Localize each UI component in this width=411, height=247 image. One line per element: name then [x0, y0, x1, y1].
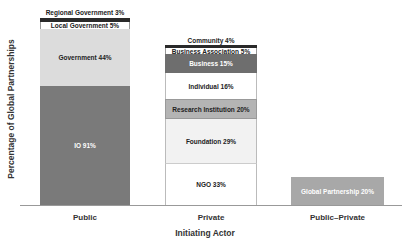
x-tick-public: Public: [40, 213, 130, 222]
segment-label: Business 15%: [189, 60, 233, 67]
segment-business: Business 15%: [165, 54, 257, 73]
segment-foundation: Foundation 29%: [165, 119, 257, 163]
label-regional-government: Regional Government 3%: [30, 9, 140, 16]
y-axis-label: Percentage of Global Partnerships: [6, 29, 18, 189]
bar-public: Local Government 5% Government 44% IO 91…: [40, 18, 130, 205]
segment-ngo: NGO 33%: [165, 163, 257, 205]
segment-local-government: Local Government 5%: [40, 22, 130, 29]
x-tick-private: Private: [165, 213, 257, 222]
segment-individual: Individual 16%: [165, 73, 257, 99]
bar-private: Business Association 5% Business 15% Ind…: [165, 45, 257, 205]
x-axis-label: Initiating Actor: [150, 228, 260, 238]
segment-research-institution: Research Institution 20%: [165, 99, 257, 119]
segment-label: NGO 33%: [196, 181, 226, 188]
stacked-bar-chart: Percentage of Global Partnerships Local …: [0, 0, 411, 247]
x-axis-line: [20, 205, 402, 206]
label-community: Community 4%: [165, 37, 257, 44]
segment-label: IO 91%: [74, 142, 96, 149]
segment-global-partnership: Global Partnership 20%: [291, 177, 384, 205]
segment-label: Foundation 29%: [186, 138, 236, 145]
segment-io: IO 91%: [40, 86, 130, 205]
segment-label: Global Partnership 20%: [301, 188, 374, 195]
segment-label: Individual 16%: [188, 83, 233, 90]
segment-label: Local Government 5%: [51, 22, 119, 29]
segment-label: Research Institution 20%: [172, 106, 249, 113]
segment-label: Government 44%: [58, 54, 111, 61]
x-tick-public-private: Public–Private: [291, 213, 384, 222]
bar-public-private: Global Partnership 20%: [291, 177, 384, 205]
segment-government: Government 44%: [40, 29, 130, 86]
